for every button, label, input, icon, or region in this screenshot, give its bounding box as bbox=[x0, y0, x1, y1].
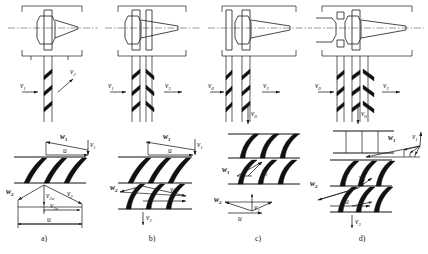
panel-b-w2-label: w2 bbox=[110, 183, 118, 193]
panel-d-flow-v0-bottom: v0 bbox=[358, 106, 367, 124]
panel-b-w1-label: w1 bbox=[163, 132, 171, 142]
panel-a-section: v1 v2 bbox=[8, 6, 98, 122]
panel-b-v3-tri-label: v3 bbox=[146, 213, 152, 223]
panel-a-v2-tri-label: v2 bbox=[67, 189, 73, 199]
panel-c-v2-label: v2 bbox=[263, 81, 269, 91]
panel-a-v2u-label: v2u bbox=[50, 201, 59, 211]
panel-b-triangles: w1 u v1 w2 v2 v3 bbox=[110, 132, 203, 225]
panel-d-v0-bottom-label: v0 bbox=[361, 109, 367, 119]
panel-b-v2-label: v2 bbox=[170, 185, 176, 195]
panel-a-w1-label: w1 bbox=[60, 132, 68, 142]
panel-b-u-label: u bbox=[168, 146, 172, 155]
panel-c-section: v0 v2 v0 bbox=[208, 6, 312, 124]
panel-a-flow-v2: v2 bbox=[58, 67, 76, 92]
panel-c-u-label: u bbox=[238, 214, 242, 223]
panel-a-w2-label: w2 bbox=[6, 187, 14, 197]
panel-d-w2-label: w2 bbox=[310, 179, 318, 189]
panel-b-v1-tri-label: v1 bbox=[197, 140, 203, 150]
panel-c-duct-blades bbox=[226, 69, 250, 112]
panel-c-cascade-blades bbox=[238, 134, 299, 184]
panel-d-caption: d) bbox=[359, 234, 366, 243]
panel-a-flow-v1: v1 bbox=[20, 81, 38, 92]
panel-b-flow-v1: v1 bbox=[108, 81, 126, 92]
panel-c-v0-bottom-label: v0 bbox=[251, 109, 257, 119]
panel-b-section: v1 v3 bbox=[105, 6, 200, 122]
panel-a-u-label-top: u bbox=[63, 146, 67, 155]
panel-b-v1-label: v1 bbox=[108, 81, 114, 91]
panel-d-u-label: u bbox=[345, 197, 349, 206]
panel-c-flow-v2: v2 bbox=[262, 81, 280, 92]
panel-d-duct-blades bbox=[337, 69, 374, 113]
panel-b-duct-blades bbox=[132, 69, 154, 112]
panel-d-v3-tri-label: v3 bbox=[355, 217, 361, 227]
panel-c-flow-v0-bottom: v0 bbox=[248, 106, 257, 124]
panel-a-caption: a) bbox=[41, 234, 48, 243]
panel-c-w2-label: w2 bbox=[214, 195, 222, 205]
panel-d-w1-label: w1 bbox=[388, 133, 396, 143]
panel-b-v3-label: v3 bbox=[165, 81, 171, 91]
panel-a-v1-tri-label: v1 bbox=[90, 140, 96, 150]
panel-a-triangles: w1 u v1 w2 v2 v2a v2u u bbox=[6, 132, 96, 228]
panel-c-v0-label: v0 bbox=[208, 81, 214, 91]
panel-d-triangles: w1 v1 w2 v2 u v3 bbox=[310, 131, 421, 228]
turbine-stage-figure: v1 v2 w1 u v1 w2 v2 bbox=[0, 0, 428, 254]
panel-a-duct-blades bbox=[44, 69, 52, 112]
panel-a-v2-label: v2 bbox=[70, 67, 76, 77]
panel-d-flow-v0: v0 bbox=[315, 81, 334, 92]
panel-d-v0-label: v0 bbox=[315, 81, 321, 91]
panel-c-triangles: w1 v1 w2 v2 u bbox=[214, 134, 300, 223]
panel-a-cascade-blades bbox=[24, 158, 87, 183]
panel-a-v1-label: v1 bbox=[20, 81, 26, 91]
panel-d-v1-label: v1 bbox=[412, 132, 418, 142]
panel-b-flow-v3: v3 bbox=[164, 81, 182, 92]
panel-a-v2a-label: v2a bbox=[46, 191, 55, 201]
panel-c-v2-tri-label: v2 bbox=[254, 203, 260, 213]
panel-b-caption: b) bbox=[149, 234, 156, 243]
panel-d-flow-v3: v3 bbox=[382, 81, 400, 92]
panel-a-u-label-bottom: u bbox=[47, 215, 51, 224]
panel-c-w1-label: w1 bbox=[222, 165, 230, 175]
panel-c-caption: c) bbox=[255, 234, 262, 243]
panel-d-v3-label: v3 bbox=[383, 81, 389, 91]
panel-d-section: v0 v3 v0 bbox=[314, 6, 424, 124]
panel-c-flow-v0: v0 bbox=[208, 81, 224, 92]
